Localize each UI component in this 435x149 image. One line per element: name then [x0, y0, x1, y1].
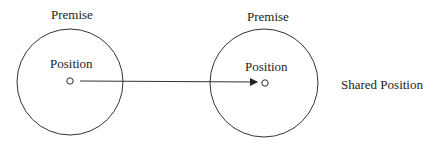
right-premise-title: Premise [247, 10, 289, 23]
right-position-node [262, 80, 268, 86]
connection-arrow [80, 81, 257, 82]
left-premise-title: Premise [51, 8, 93, 21]
left-position-node [67, 78, 73, 84]
right-position-label: Position [245, 60, 288, 73]
left-position-label: Position [50, 57, 93, 70]
shared-position-label: Shared Position [341, 78, 423, 91]
diagram-canvas [0, 0, 435, 149]
